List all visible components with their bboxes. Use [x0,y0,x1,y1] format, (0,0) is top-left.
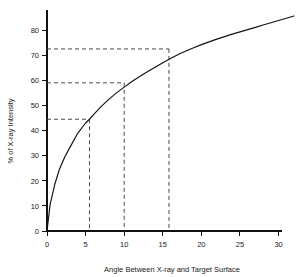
x-tick-label: 30 [274,240,282,249]
y-tick-label: 70 [31,51,39,60]
y-tick-label: 30 [31,151,39,160]
chart-plot-area: 01020304050607080 051015202530 Angle Bet… [0,0,298,277]
y-tick-label: 80 [31,26,39,35]
y-tick-label: 50 [31,101,39,110]
x-tick-label: 5 [84,240,88,249]
guide-lines [47,49,169,231]
y-axis: 01020304050607080 [31,10,47,236]
y-tick-label: 40 [31,126,39,135]
xray-intensity-chart: 01020304050607080 051015202530 Angle Bet… [0,0,298,277]
data-curve-line [47,16,294,231]
y-axis-title: % of X-ray Intensity [6,98,15,163]
x-tick-label: 20 [197,240,205,249]
y-tick-label: 60 [31,76,39,85]
y-tick-label: 20 [31,177,39,186]
x-tick-label: 10 [120,240,128,249]
x-tick-label: 25 [236,240,244,249]
y-tick-label: 0 [35,227,39,236]
x-tick-label: 15 [159,240,167,249]
x-tick-label: 0 [45,240,49,249]
x-axis-title: Angle Between X-ray and Target Surface [104,265,240,274]
y-tick-label: 10 [31,202,39,211]
x-axis: 051015202530 [45,231,283,249]
